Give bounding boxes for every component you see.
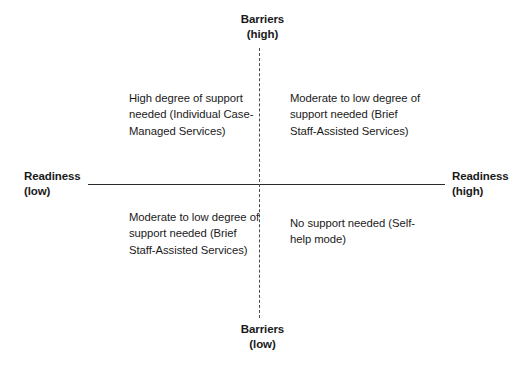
axis-label-barriers-low-qualifier: (low) [0,337,525,352]
quadrant-bottom-left-text: Moderate to low degree of support needed… [129,209,261,258]
axis-label-barriers-high-qualifier: (high) [0,27,525,42]
axis-label-barriers-high-name: Barriers [241,13,284,25]
quadrant-diagram: Barriers (high) Barriers (low) Readiness… [0,0,525,365]
axis-label-barriers-low: Barriers (low) [0,322,525,352]
axis-label-readiness-high: Readiness (high) [452,169,509,199]
readiness-axis-line [88,184,445,185]
axis-label-barriers-high: Barriers (high) [0,12,525,42]
axis-label-readiness-low-name: Readiness [24,170,81,182]
axis-label-barriers-low-name: Barriers [241,323,284,335]
quadrant-bottom-right-text: No support needed (Self-help mode) [290,215,422,248]
quadrant-top-right-text: Moderate to low degree of support needed… [290,90,422,139]
quadrant-top-left-text: High degree of support needed (Individua… [129,90,261,139]
axis-label-readiness-low: Readiness (low) [24,169,81,199]
axis-label-readiness-high-qualifier: (high) [452,184,509,199]
axis-label-readiness-high-name: Readiness [452,170,509,182]
barriers-axis-line [259,48,260,318]
axis-label-readiness-low-qualifier: (low) [24,184,81,199]
